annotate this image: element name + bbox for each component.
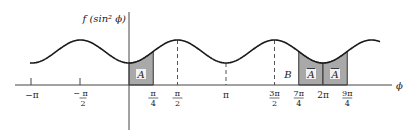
tick-denominator-nine-quarter-pi: 4 (345, 99, 350, 108)
tick-denominator-neg-half-pi: 2 (80, 99, 85, 108)
tick-denominator-seven-quarter-pi: 4 (296, 99, 301, 108)
tick-denominator-three-half-pi: 2 (272, 99, 277, 108)
tick-label-pi: π (223, 90, 229, 100)
tick-label-half-pi: π (175, 89, 180, 98)
region-label-a-bar-1: A (306, 69, 314, 80)
tick-label-neg-pi: −π (25, 90, 39, 100)
tick-label-quarter-pi: π (151, 89, 156, 98)
x-axis-label: ϕ (396, 80, 403, 91)
region-label-a-bar-2: A (330, 69, 338, 80)
region-label-a: A (136, 69, 144, 80)
region-label-b: B (283, 69, 291, 80)
tick-denominator-half-pi: 2 (175, 99, 180, 108)
tick-label-neg-half-pi: − π (73, 89, 88, 98)
tick-label-two-pi: 2π (317, 90, 329, 100)
tick-label-three-half-pi: 3π (269, 89, 279, 98)
sin-squared-diagram: A A A B f (sin² ϕ) ϕ −π− π2π4π2π3π27π42π… (0, 0, 411, 138)
tick-label-nine-quarter-pi: 9π (342, 89, 352, 98)
tick-label-seven-quarter-pi: 7π (294, 89, 304, 98)
y-axis-label: f (sin² ϕ) (82, 13, 127, 24)
tick-denominator-quarter-pi: 4 (151, 99, 156, 108)
tick-labels: −π− π2π4π2π3π27π42π9π4 (25, 89, 352, 108)
function-curve (30, 40, 380, 63)
